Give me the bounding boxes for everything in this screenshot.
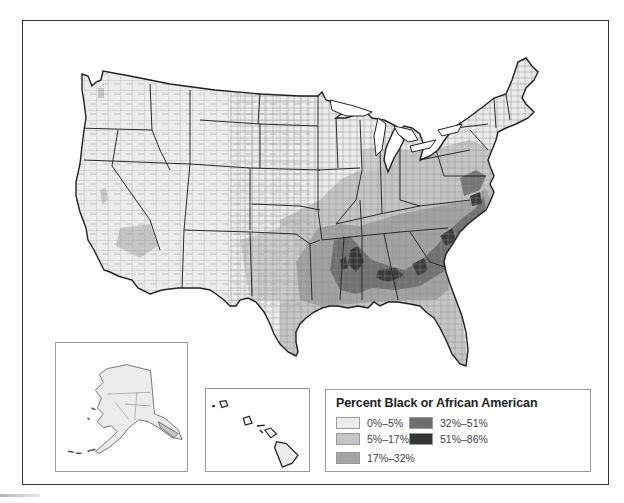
- legend-item-5-17: 5%–17%: [336, 433, 409, 445]
- legend-title: Percent Black or African American: [336, 396, 537, 410]
- legend-label: 0%–5%: [367, 417, 403, 429]
- legend-swatch: [336, 433, 360, 445]
- legend-label: 5%–17%: [367, 433, 409, 445]
- legend-item-51-86: 51%–86%: [409, 433, 488, 445]
- legend-swatch: [336, 452, 360, 464]
- legend: Percent Black or African American 0%–5% …: [325, 389, 591, 472]
- legend-swatch: [409, 433, 433, 445]
- legend-item-32-51: 32%–51%: [409, 417, 488, 429]
- page-edge-bar: [0, 494, 40, 497]
- legend-item-17-32: 17%–32%: [336, 452, 415, 464]
- alaska-inset: [55, 342, 188, 472]
- legend-label: 32%–51%: [440, 417, 488, 429]
- hawaii-map: [206, 389, 309, 471]
- legend-swatch: [336, 417, 360, 429]
- hawaii-inset: [205, 388, 310, 472]
- alaska-map: [56, 343, 187, 471]
- legend-label: 51%–86%: [440, 433, 488, 445]
- legend-item-0-5: 0%–5%: [336, 417, 403, 429]
- legend-label: 17%–32%: [367, 452, 415, 464]
- legend-swatch: [409, 417, 433, 429]
